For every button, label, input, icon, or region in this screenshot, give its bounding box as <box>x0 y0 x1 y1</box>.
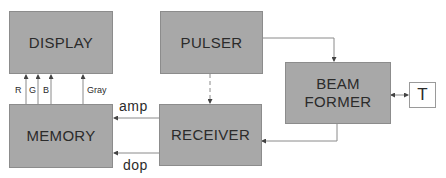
signal-r-label: R <box>15 85 22 95</box>
ultrasound-block-diagram: DISPLAY PULSER BEAM FORMER T MEMORY RECE… <box>0 0 446 178</box>
arrow-beamformer-to-receiver <box>262 124 337 141</box>
signal-g-label: G <box>29 85 36 95</box>
beam-former-label-line1: BEAM <box>305 75 372 93</box>
receiver-block: RECEIVER <box>159 104 262 166</box>
arrow-pulser-to-beamformer <box>263 38 334 61</box>
beam-former-block: BEAM FORMER <box>285 62 391 124</box>
pulser-block: PULSER <box>160 11 263 74</box>
receiver-label: RECEIVER <box>171 126 250 144</box>
memory-block: MEMORY <box>9 104 113 168</box>
signal-gray-label: Gray <box>87 85 107 95</box>
display-label: DISPLAY <box>29 34 93 52</box>
pulser-label: PULSER <box>181 34 243 52</box>
transducer-block: T <box>409 82 436 108</box>
signal-dop-label: dop <box>123 157 148 173</box>
memory-label: MEMORY <box>26 127 95 145</box>
transducer-label: T <box>417 86 428 104</box>
signal-amp-label: amp <box>119 98 148 114</box>
display-block: DISPLAY <box>9 11 113 74</box>
signal-b-label: B <box>43 85 49 95</box>
beam-former-label-line2: FORMER <box>305 93 372 111</box>
